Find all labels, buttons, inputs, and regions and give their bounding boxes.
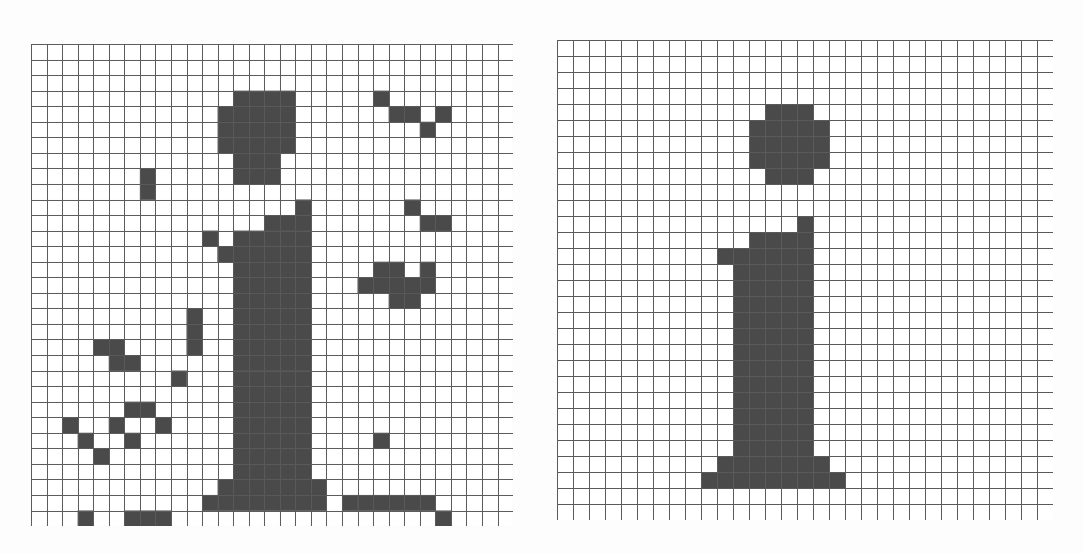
filled-cell xyxy=(233,464,249,480)
filled-cell xyxy=(295,324,311,340)
filled-cell xyxy=(781,328,797,344)
filled-cell xyxy=(749,344,765,360)
filled-cell xyxy=(218,495,234,511)
noisy-bitmap-grid-svg xyxy=(31,44,513,526)
filled-cell xyxy=(295,293,311,309)
filled-cell xyxy=(781,360,797,376)
filled-cell xyxy=(280,246,296,262)
filled-cell xyxy=(218,106,234,122)
filled-cell xyxy=(781,120,797,136)
filled-cell xyxy=(264,293,280,309)
filled-cell xyxy=(295,448,311,464)
filled-cell xyxy=(280,308,296,324)
clean-bitmap-grid-svg xyxy=(557,40,1053,520)
filled-cell xyxy=(717,456,733,472)
filled-cell xyxy=(202,231,218,247)
filled-cell xyxy=(233,137,249,153)
filled-cell xyxy=(749,408,765,424)
filled-cell xyxy=(249,386,265,402)
filled-cell xyxy=(249,417,265,433)
filled-cell xyxy=(749,360,765,376)
filled-cell xyxy=(765,312,781,328)
filled-cell xyxy=(249,371,265,387)
filled-cell xyxy=(813,152,829,168)
filled-cell xyxy=(749,328,765,344)
filled-cell xyxy=(781,136,797,152)
filled-cell xyxy=(249,495,265,511)
filled-cell xyxy=(733,472,749,488)
filled-cell xyxy=(249,479,265,495)
filled-cell xyxy=(749,248,765,264)
filled-cell xyxy=(813,120,829,136)
filled-cell xyxy=(233,433,249,449)
filled-cell xyxy=(264,479,280,495)
filled-cell xyxy=(358,495,374,511)
filled-cell xyxy=(420,122,436,138)
filled-cell xyxy=(295,495,311,511)
filled-cell xyxy=(733,360,749,376)
filled-cell xyxy=(249,106,265,122)
filled-cell xyxy=(233,231,249,247)
filled-cell xyxy=(435,106,451,122)
filled-cell xyxy=(233,246,249,262)
filled-cell xyxy=(749,120,765,136)
filled-cell xyxy=(249,137,265,153)
filled-cell xyxy=(797,264,813,280)
filled-cell xyxy=(733,376,749,392)
filled-cell xyxy=(280,293,296,309)
filled-cell xyxy=(280,231,296,247)
filled-cell xyxy=(140,510,156,526)
filled-cell xyxy=(233,308,249,324)
filled-cell xyxy=(233,277,249,293)
filled-cell xyxy=(404,199,420,215)
filled-cell xyxy=(249,168,265,184)
filled-cell xyxy=(797,456,813,472)
filled-cell xyxy=(264,122,280,138)
filled-cell xyxy=(781,392,797,408)
filled-cell xyxy=(295,355,311,371)
filled-cell xyxy=(781,472,797,488)
filled-cell xyxy=(733,456,749,472)
filled-cell xyxy=(233,324,249,340)
filled-cell xyxy=(404,277,420,293)
filled-cell xyxy=(264,106,280,122)
filled-cell xyxy=(233,262,249,278)
filled-cell xyxy=(124,355,140,371)
filled-cell xyxy=(264,464,280,480)
filled-cell xyxy=(155,510,171,526)
filled-cell xyxy=(765,104,781,120)
filled-cell xyxy=(733,280,749,296)
filled-cell xyxy=(797,440,813,456)
filled-cell xyxy=(765,440,781,456)
filled-cell xyxy=(435,215,451,231)
filled-cell xyxy=(264,168,280,184)
filled-cell xyxy=(249,153,265,169)
filled-cell xyxy=(358,277,374,293)
filled-cell xyxy=(797,344,813,360)
filled-cell xyxy=(781,456,797,472)
filled-cell xyxy=(765,152,781,168)
filled-cell xyxy=(171,371,187,387)
filled-cell xyxy=(420,262,436,278)
filled-cell xyxy=(280,277,296,293)
filled-cell xyxy=(420,495,436,511)
filled-cell xyxy=(264,246,280,262)
filled-cell xyxy=(295,371,311,387)
filled-cell xyxy=(717,248,733,264)
filled-cell xyxy=(749,264,765,280)
filled-cell xyxy=(93,339,109,355)
filled-cell xyxy=(233,106,249,122)
filled-cell xyxy=(373,277,389,293)
filled-cell xyxy=(264,339,280,355)
filled-cell xyxy=(765,424,781,440)
filled-cell xyxy=(124,433,140,449)
filled-cell xyxy=(264,308,280,324)
filled-cell xyxy=(373,91,389,107)
filled-cell xyxy=(264,137,280,153)
filled-cell xyxy=(264,371,280,387)
filled-cell xyxy=(233,402,249,418)
filled-cell xyxy=(295,277,311,293)
filled-cell xyxy=(389,277,405,293)
filled-cell xyxy=(264,262,280,278)
filled-cell xyxy=(233,479,249,495)
